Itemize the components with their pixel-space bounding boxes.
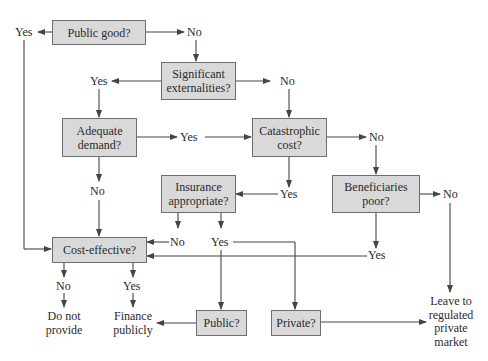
label-cost-no: No [55,280,72,293]
label-demand-no: No [89,185,106,198]
label-catastrophic-yes: Yes [279,188,298,201]
decision-public: Public? [196,310,247,336]
label-public-good-yes: Yes [14,26,33,39]
decision-significant-externalities: Significant externalities? [161,62,236,100]
outcome-leave-to-market: Leave to regulated private market [424,295,478,349]
label-insurance-no: No [169,236,186,249]
label-demand-yes: Yes [179,131,198,144]
label-beneficiaries-yes: Yes [367,249,386,262]
label-public-good-no: No [186,26,203,39]
label-catastrophic-no: No [368,131,385,144]
decision-cost-effective: Cost-effective? [52,237,147,263]
label-beneficiaries-no: No [442,188,459,201]
outcome-finance-publicly: Finance publicly [106,310,160,337]
label-cost-yes: Yes [122,280,141,293]
label-externalities-yes: Yes [89,75,108,88]
decision-insurance-appropriate: Insurance appropriate? [161,175,236,213]
label-externalities-no: No [279,75,296,88]
decision-public-good: Public good? [52,20,146,45]
decision-adequate-demand: Adequate demand? [62,118,137,157]
outcome-do-not-provide: Do not provide [38,310,90,337]
label-insurance-yes: Yes [210,236,229,249]
decision-beneficiaries-poor: Beneficiaries poor? [332,175,420,213]
decision-private: Private? [271,310,321,336]
decision-catastrophic-cost: Catastrophic cost? [252,118,327,157]
